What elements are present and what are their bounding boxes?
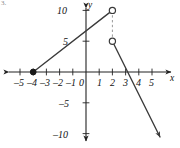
y-axis-label: y <box>88 1 92 11</box>
y-tick-label-5: 5 <box>63 37 68 47</box>
branch-2-ray <box>112 41 160 137</box>
x-tick-label-neg1: –1 <box>66 78 76 88</box>
x-tick-label-zero: 0 <box>79 78 84 88</box>
open-endpoint-upper-marker <box>109 7 115 13</box>
y-tick-label-10: 10 <box>57 6 67 16</box>
y-tick-label-neg5: –5 <box>59 99 69 109</box>
piecewise-function-figure: 3. <box>0 0 180 148</box>
open-endpoint-lower-marker <box>109 38 115 44</box>
x-tick-label-1: 1 <box>97 78 102 88</box>
x-tick-label-4: 4 <box>136 78 141 88</box>
x-tick-label-neg3: –3 <box>40 78 50 88</box>
x-axis-label: x <box>170 74 174 84</box>
x-tick-label-2: 2 <box>110 78 115 88</box>
y-tick-label-neg10: –10 <box>53 130 68 140</box>
x-tick-label-neg4: –4 <box>27 78 37 88</box>
coordinate-plane-svg <box>0 0 180 148</box>
x-tick-label-5: 5 <box>149 78 154 88</box>
branch-1-segment <box>33 10 112 72</box>
x-tick-label-neg2: –2 <box>53 78 63 88</box>
x-tick-label-neg5: –5 <box>14 78 24 88</box>
x-tick-label-3: 3 <box>123 78 128 88</box>
closed-endpoint-marker <box>30 69 36 75</box>
